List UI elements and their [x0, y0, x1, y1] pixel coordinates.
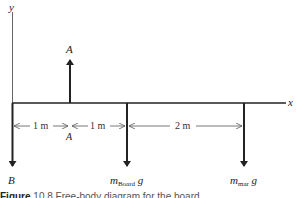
figure-caption: Figure 10.8 Free-body diagram for the bo…	[0, 191, 200, 198]
force-b-label: B	[8, 175, 15, 186]
board-weight-label: mBoard g	[110, 175, 143, 188]
force-a-label: A	[66, 44, 73, 55]
mar-weight-label: mmar g	[230, 175, 257, 188]
dimension-1-label: 1 m	[32, 121, 49, 131]
dimension-3-label: 2 m	[174, 121, 191, 131]
pivot-label: A	[66, 132, 72, 142]
free-body-diagram	[0, 0, 298, 198]
x-axis-label: x	[288, 97, 293, 108]
y-axis-label: y	[9, 2, 14, 13]
dimension-2-label: 1 m	[89, 121, 106, 131]
